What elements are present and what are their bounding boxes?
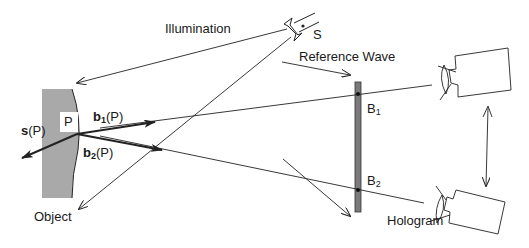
b2-vector-label: b2(P) <box>83 146 113 161</box>
b2-point-label: B2 <box>367 174 381 189</box>
object-label: Object <box>34 210 72 223</box>
holography-diagram <box>0 0 529 248</box>
illumination-label: Illumination <box>165 22 231 35</box>
hologram-label: Hologram <box>387 214 443 227</box>
ray-b2-extended <box>100 136 424 203</box>
ray-b1-extended <box>100 85 432 128</box>
source-label: S <box>313 28 322 41</box>
movement-double-arrow <box>486 108 488 186</box>
reference-wave-label: Reference Wave <box>299 50 395 63</box>
point-p-label: P <box>64 115 73 128</box>
hologram-plate <box>355 82 361 212</box>
s-vector-label: s(P) <box>21 124 46 137</box>
point-b2 <box>356 188 360 192</box>
reference-arrow-bottom <box>283 159 350 216</box>
illumination-ray-top <box>77 29 287 83</box>
b1-vector-label: b1(P) <box>93 110 123 125</box>
point-b1 <box>356 92 360 96</box>
b1-point-label: B1 <box>367 102 381 117</box>
camera-top-icon <box>438 48 511 100</box>
object-shape <box>42 89 79 198</box>
